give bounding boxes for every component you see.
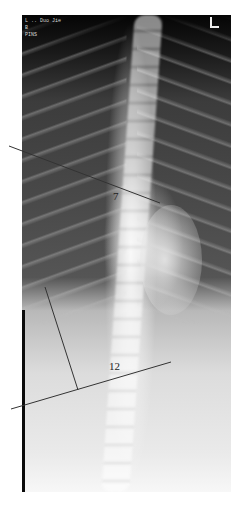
patient-info-line-1: L .. Duo Jie xyxy=(25,18,61,25)
patient-info-line-2: B xyxy=(25,25,61,32)
xray-image: L .. Duo Jie B PINS xyxy=(22,15,231,492)
patient-info: L .. Duo Jie B PINS xyxy=(25,18,61,39)
patient-info-line-3: PINS xyxy=(25,32,61,39)
side-marker-l xyxy=(210,17,219,28)
heart-shadow xyxy=(140,205,202,315)
vertebra-label-upper: 7 xyxy=(113,190,119,202)
vertebra-label-lower: 12 xyxy=(109,360,120,372)
film-edge-bar xyxy=(22,310,25,492)
